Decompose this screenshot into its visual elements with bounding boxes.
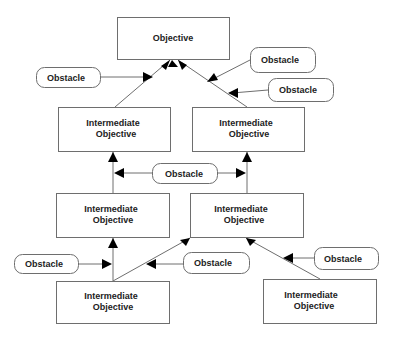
intermediate-objective-label-line2: Objective	[93, 302, 134, 312]
arrowhead-icon	[178, 60, 187, 70]
obstacle-label: Obstacle	[279, 85, 317, 95]
node-intermediate-objective-r3-right: Intermediate Objective	[264, 280, 377, 324]
arrowhead-icon	[102, 259, 112, 269]
obstacle-label: Obstacle	[25, 259, 63, 269]
obstacle-bottom-middle: Obstacle	[184, 253, 250, 274]
node-intermediate-objective-r1-right: Intermediate Objective	[193, 108, 305, 152]
arrowhead-icon	[143, 72, 153, 82]
intermediate-objective-label-line2: Objective	[229, 129, 270, 139]
intermediate-objective-label-line2: Objective	[294, 301, 335, 311]
intermediate-objective-label-line1: Intermediate	[284, 290, 338, 300]
node-intermediate-objective-r1-left: Intermediate Objective	[59, 108, 171, 152]
obstacle-label: Obstacle	[261, 55, 299, 65]
connector-obs-top-right-1	[213, 60, 250, 79]
objective-label: Objective	[153, 33, 194, 43]
intermediate-objective-label-line1: Intermediate	[86, 118, 140, 128]
intermediate-objective-label-line1: Intermediate	[214, 204, 268, 214]
arrowhead-icon	[207, 73, 218, 82]
edge-io-r1-left-to-objective	[115, 60, 170, 107]
obstacle-middle: Obstacle	[153, 164, 218, 184]
arrowhead-icon	[146, 259, 156, 269]
intermediate-objective-label-line2: Objective	[224, 215, 265, 225]
arrowhead-icon	[114, 168, 124, 178]
arrowhead-icon	[161, 60, 170, 70]
edge-io-r3-left-to-io-r2-right	[113, 238, 190, 281]
intermediate-objective-label-line2: Objective	[93, 215, 134, 225]
obstacle-label: Obstacle	[324, 254, 362, 264]
obstacle-bottom-right: Obstacle	[315, 248, 379, 270]
intermediate-objective-label-line1: Intermediate	[84, 204, 138, 214]
node-intermediate-objective-r2-left: Intermediate Objective	[57, 194, 170, 238]
node-objective: Objective	[118, 18, 230, 60]
arrowhead-icon	[246, 238, 256, 246]
intermediate-objective-label-line2: Objective	[96, 129, 137, 139]
intermediate-objective-label-line1: Intermediate	[84, 291, 138, 301]
arrowhead-icon	[108, 152, 118, 162]
arrowhead-icon	[180, 238, 190, 246]
arrowhead-icon	[108, 238, 118, 248]
node-intermediate-objective-r3-left: Intermediate Objective	[57, 282, 170, 324]
intermediate-objective-label-line1: Intermediate	[219, 118, 273, 128]
arrowhead-icon	[228, 88, 238, 98]
obstacle-label: Obstacle	[47, 73, 85, 83]
arrowhead-icon	[236, 168, 246, 178]
arrowhead-icon	[242, 152, 252, 162]
obstacle-bottom-left: Obstacle	[15, 255, 79, 274]
obstacle-label: Obstacle	[194, 258, 232, 268]
obstacle-top-left: Obstacle	[37, 68, 101, 88]
obstacle-label: Obstacle	[165, 169, 203, 179]
obstacle-top-right-2: Obstacle	[269, 79, 334, 102]
diagram-canvas: Objective Intermediate Objective Interme…	[0, 0, 394, 340]
node-intermediate-objective-r2-right: Intermediate Objective	[191, 194, 304, 238]
obstacle-top-right-1: Obstacle	[251, 48, 316, 73]
